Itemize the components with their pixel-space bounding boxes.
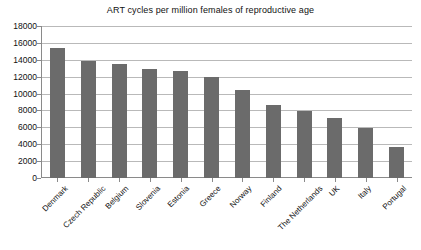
y-axis-tick-mark: [37, 127, 41, 128]
bar-slot: [165, 26, 196, 178]
x-axis-tick-label: Greece: [197, 184, 222, 209]
x-axis-tick-mark: [181, 178, 182, 182]
x-axis-tick-mark: [88, 178, 89, 182]
bar[interactable]: [142, 69, 157, 178]
y-axis-tick-label: 6000: [0, 123, 37, 132]
x-axis-tick-label: Italy: [356, 184, 373, 201]
y-axis-tick-mark: [37, 43, 41, 44]
bar[interactable]: [173, 71, 188, 178]
bar[interactable]: [204, 77, 219, 178]
bar[interactable]: [235, 90, 250, 178]
x-axis-tick-label: Slovenia: [134, 184, 162, 212]
bar[interactable]: [112, 64, 127, 178]
x-axis-tick-mark: [212, 178, 213, 182]
x-axis-tick-mark: [57, 178, 58, 182]
y-axis-tick-mark: [37, 60, 41, 61]
bar-series: [42, 26, 412, 178]
x-axis-tick-label: Portugal: [381, 184, 408, 211]
y-axis-tick-label: 18000: [0, 22, 37, 31]
y-axis-tick-label: 2000: [0, 157, 37, 166]
x-axis-tick-label: Belgium: [104, 184, 131, 211]
bar-slot: [42, 26, 73, 178]
y-axis-tick-label: 8000: [0, 106, 37, 115]
bar-chart: ART cycles per million females of reprod…: [0, 0, 421, 250]
x-axis-tick-label: The Netherlands: [276, 184, 324, 232]
x-axis-tick-mark: [366, 178, 367, 182]
bar-slot: [104, 26, 135, 178]
bar-slot: [350, 26, 381, 178]
bar[interactable]: [327, 118, 342, 178]
x-axis-tick-label: Norway: [228, 184, 254, 210]
bar-slot: [258, 26, 289, 178]
bar-slot: [196, 26, 227, 178]
y-axis-tick-label: 14000: [0, 56, 37, 65]
y-axis-tick-mark: [37, 144, 41, 145]
x-axis-tick-label: Finland: [259, 184, 284, 209]
x-axis-tick-label: UK: [327, 184, 341, 198]
x-axis-tick-mark: [304, 178, 305, 182]
y-axis-tick-mark: [37, 77, 41, 78]
y-axis-tick-label: 12000: [0, 73, 37, 82]
x-axis-tick-label: Estonia: [166, 184, 191, 209]
bar[interactable]: [266, 105, 281, 178]
y-axis-tick-mark: [37, 94, 41, 95]
y-axis-tick-label: 10000: [0, 90, 37, 99]
bar[interactable]: [50, 48, 65, 178]
bar-slot: [319, 26, 350, 178]
bar[interactable]: [297, 111, 312, 178]
bar[interactable]: [358, 128, 373, 178]
bar-slot: [289, 26, 320, 178]
y-axis-tick-mark: [37, 161, 41, 162]
bar[interactable]: [81, 61, 96, 178]
bar-slot: [73, 26, 104, 178]
bar[interactable]: [389, 147, 404, 178]
x-axis-tick-mark: [150, 178, 151, 182]
bar-slot: [227, 26, 258, 178]
x-axis-tick-mark: [273, 178, 274, 182]
x-axis-tick-mark: [397, 178, 398, 182]
chart-title: ART cycles per million females of reprod…: [0, 5, 421, 16]
y-axis-tick-mark: [37, 26, 41, 27]
y-axis-tick-label: 0: [0, 174, 37, 183]
y-axis-tick-label: 4000: [0, 140, 37, 149]
bar-slot: [134, 26, 165, 178]
x-axis-tick-mark: [335, 178, 336, 182]
y-axis-tick-mark: [37, 110, 41, 111]
x-axis-tick-mark: [242, 178, 243, 182]
x-axis-tick-label: Denmark: [41, 184, 70, 213]
bar-slot: [381, 26, 412, 178]
y-axis-tick-mark: [37, 178, 41, 179]
x-axis-tick-mark: [119, 178, 120, 182]
y-axis-tick-label: 16000: [0, 39, 37, 48]
